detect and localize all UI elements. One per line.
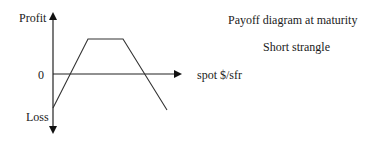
y-axis-label-profit: Profit: [19, 12, 46, 24]
zero-label: 0: [38, 69, 44, 81]
x-axis-label: spot $/sfr: [197, 69, 242, 81]
diagram-subtitle: Short strangle: [263, 41, 330, 53]
diagram-title: Payoff diagram at maturity: [228, 14, 357, 26]
y-axis-label-loss: Loss: [26, 111, 49, 123]
